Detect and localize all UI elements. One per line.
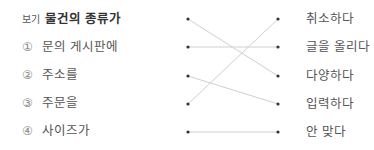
right-item-2: 다양하다 xyxy=(306,66,354,86)
left-dot[interactable] xyxy=(186,17,189,20)
right-dot[interactable] xyxy=(276,74,279,77)
right-item-3: 입력하다 xyxy=(306,94,354,114)
left-dot[interactable] xyxy=(186,74,189,77)
left-dot[interactable] xyxy=(186,102,189,105)
right-dot[interactable] xyxy=(276,102,279,105)
right-dot[interactable] xyxy=(276,17,279,20)
right-dot[interactable] xyxy=(276,130,279,133)
connection-line xyxy=(188,19,278,104)
right-item-0: 취소하다 xyxy=(306,9,354,29)
left-dot[interactable] xyxy=(186,45,189,48)
right-dot[interactable] xyxy=(276,45,279,48)
right-item-4: 안 맞다 xyxy=(306,122,346,142)
connection-line xyxy=(188,76,278,104)
right-item-1: 글을 올리다 xyxy=(306,37,370,57)
left-dot[interactable] xyxy=(186,130,189,133)
